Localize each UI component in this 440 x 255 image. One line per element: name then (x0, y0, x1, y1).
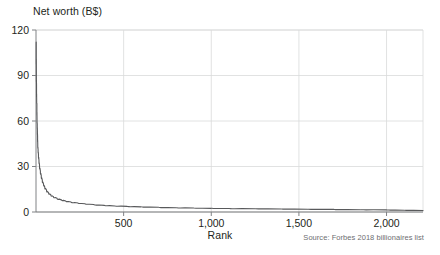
source-note: Source: Forbes 2018 billionaires list (303, 233, 424, 242)
tick-labels: 03060901205001,0001,5002,000 (11, 24, 399, 229)
svg-text:500: 500 (115, 217, 133, 229)
svg-text:120: 120 (11, 24, 29, 36)
svg-text:60: 60 (17, 115, 29, 127)
grid-lines (36, 30, 423, 212)
svg-text:0: 0 (23, 206, 29, 218)
chart-plot-svg: 03060901205001,0001,5002,000 (0, 0, 440, 255)
svg-text:1,500: 1,500 (286, 217, 312, 229)
tick-marks (32, 30, 387, 216)
svg-text:30: 30 (17, 160, 29, 172)
chart-container: Net worth (B$) 03060901205001,0001,5002,… (0, 0, 440, 255)
svg-text:2,000: 2,000 (373, 217, 399, 229)
svg-text:1,000: 1,000 (198, 217, 224, 229)
data-series-line (36, 42, 423, 210)
svg-text:90: 90 (17, 69, 29, 81)
